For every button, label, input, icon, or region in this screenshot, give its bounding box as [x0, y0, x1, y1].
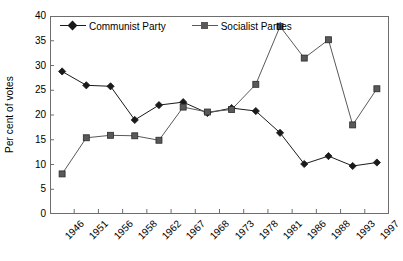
- y-tick-label: 15: [35, 135, 46, 145]
- x-tick-label: 1946: [63, 218, 87, 242]
- legend-swatch-square-icon: [192, 21, 218, 31]
- data-point-marker: [59, 171, 65, 177]
- data-point-marker: [373, 159, 380, 166]
- series-line: [62, 26, 377, 174]
- data-point-marker: [156, 137, 162, 143]
- y-tick-label: 10: [35, 160, 46, 170]
- data-point-marker: [83, 135, 89, 141]
- y-tick-label: 30: [35, 61, 46, 71]
- x-tick-label: 1986: [305, 218, 329, 242]
- data-point-marker: [349, 162, 356, 169]
- x-tick-label: 1951: [87, 218, 111, 242]
- data-point-marker: [108, 132, 114, 138]
- x-tick-label: 1981: [281, 218, 305, 242]
- x-tick-label: 1978: [256, 218, 280, 242]
- y-tick-label: 40: [35, 11, 46, 21]
- x-tick-label: 1968: [208, 218, 232, 242]
- y-axis-title: Per cent of votes: [2, 7, 18, 222]
- data-point-marker: [204, 109, 210, 115]
- data-point-marker: [131, 116, 138, 123]
- y-tick-label: 35: [35, 36, 46, 46]
- legend-swatch-diamond-icon: [60, 21, 86, 31]
- data-point-marker: [59, 68, 66, 75]
- legend-label-socialist: Socialist Parties: [221, 21, 292, 32]
- data-point-marker: [374, 86, 380, 92]
- plot-series-layer: [50, 16, 389, 214]
- chart-container: Per cent of votes 0510152025303540 19461…: [0, 0, 403, 261]
- y-tick-label: 5: [40, 184, 46, 194]
- data-point-marker: [350, 122, 356, 128]
- data-point-marker: [107, 83, 114, 90]
- data-point-marker: [325, 37, 331, 43]
- data-point-marker: [301, 55, 307, 61]
- x-tick-label: 1997: [377, 218, 401, 242]
- x-tick-label: 1973: [232, 218, 256, 242]
- legend-item-communist: Communist Party: [60, 21, 166, 32]
- x-tick-label: 1967: [184, 218, 208, 242]
- data-point-marker: [155, 102, 162, 109]
- x-tick-label: 1993: [353, 218, 377, 242]
- data-point-marker: [253, 81, 259, 87]
- data-point-marker: [325, 152, 332, 159]
- data-point-marker: [132, 133, 138, 139]
- chart-legend: Communist Party Socialist Parties: [60, 19, 292, 33]
- x-axis-tick-labels: 1946195119561958196219671968197319781981…: [0, 214, 403, 261]
- data-point-marker: [180, 104, 186, 110]
- y-axis-tick-labels: 0510152025303540: [20, 10, 46, 220]
- legend-item-socialist: Socialist Parties: [192, 21, 292, 32]
- series-communist: [59, 68, 381, 170]
- data-point-marker: [83, 82, 90, 89]
- x-tick-label: 1956: [111, 218, 135, 242]
- y-tick-label: 20: [35, 110, 46, 120]
- series-socialist: [59, 23, 380, 177]
- data-point-marker: [229, 107, 235, 113]
- legend-label-communist: Communist Party: [89, 21, 166, 32]
- y-tick-label: 25: [35, 85, 46, 95]
- x-tick-label: 1988: [329, 218, 353, 242]
- x-tick-label: 1962: [159, 218, 183, 242]
- x-tick-label: 1958: [135, 218, 159, 242]
